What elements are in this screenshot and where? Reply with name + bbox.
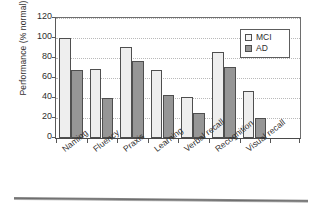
y-axis-ticks: 020406080100120 xyxy=(22,17,52,139)
bar-ad-praxis[interactable] xyxy=(132,61,144,138)
bar-mci-fluency[interactable] xyxy=(90,69,102,138)
legend-item-mci[interactable]: MCI xyxy=(245,32,285,43)
x-axis-labels: NamingFluencyPraxisLearningVerbal recall… xyxy=(0,140,318,195)
legend-item-ad[interactable]: AD xyxy=(245,43,285,54)
y-tick-label: 80 xyxy=(26,51,52,61)
y-tick-label: 100 xyxy=(26,31,52,41)
bar-group xyxy=(59,18,90,138)
bar-group xyxy=(151,18,182,138)
bar-ad-naming[interactable] xyxy=(71,70,83,138)
legend-label-ad: AD xyxy=(256,43,268,54)
legend-swatch-mci xyxy=(245,34,252,41)
y-tick-label: 20 xyxy=(26,111,52,121)
bar-group xyxy=(181,18,212,138)
bottom-divider-rule xyxy=(14,197,308,203)
y-tick-label: 120 xyxy=(26,11,52,21)
legend: MCI AD xyxy=(240,29,290,58)
y-tick-label: 40 xyxy=(26,91,52,101)
y-tick-label: 60 xyxy=(26,71,52,81)
bar-ad-recognition[interactable] xyxy=(224,67,236,138)
bar-mci-praxis[interactable] xyxy=(120,47,132,138)
bar-group xyxy=(120,18,151,138)
legend-swatch-ad xyxy=(245,45,252,52)
bar-chart-figure: Performance (% normal) 020406080100120 N… xyxy=(0,0,318,213)
legend-label-mci: MCI xyxy=(256,32,272,43)
bar-mci-learning[interactable] xyxy=(151,70,163,138)
bar-mci-naming[interactable] xyxy=(59,38,71,138)
bar-group xyxy=(90,18,121,138)
